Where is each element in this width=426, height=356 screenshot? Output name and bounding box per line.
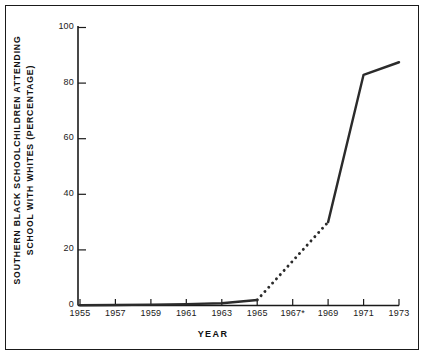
data-line-solid-late (328, 62, 399, 222)
y-tick-label-100: 100 (48, 21, 74, 31)
x-tick-label-1973: 1973 (377, 308, 421, 318)
y-tick-label-60: 60 (48, 132, 74, 142)
y-tick-label-80: 80 (48, 77, 74, 87)
y-tick-label-20: 20 (48, 243, 74, 253)
data-line-solid-early (80, 300, 257, 305)
data-line-dotted (257, 222, 328, 300)
chart-figure: SOUTHERN BLACK SCHOOLCHILDREN ATTENDING … (0, 0, 426, 356)
y-axis-ticks (78, 28, 86, 250)
y-tick-label-40: 40 (48, 188, 74, 198)
